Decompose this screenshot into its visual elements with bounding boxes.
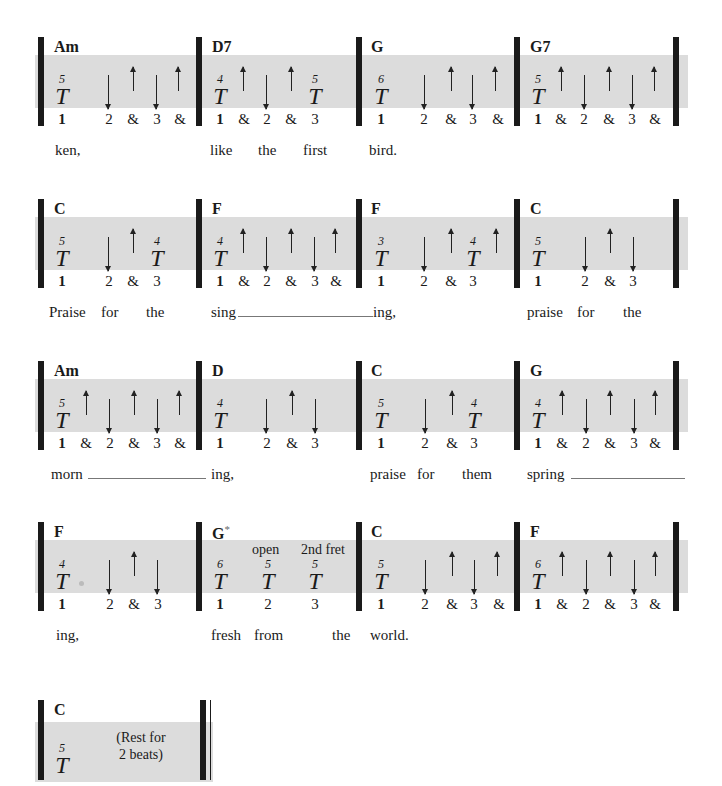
beat-count: 1 xyxy=(52,111,72,128)
beat-count: 2 xyxy=(414,111,434,128)
thumb-stroke: 5T xyxy=(52,397,72,431)
beat-count: 2 xyxy=(575,273,595,290)
up-strum-arrow-icon xyxy=(496,229,497,253)
beat-count: & xyxy=(123,273,143,290)
thumb-stroke: 6T xyxy=(371,73,391,107)
strum-row-3: Am 5T 1 & 2 & 3 & morn D 4T 1 2 & 3 ing,… xyxy=(0,361,722,521)
strum-row-4: F 4T 1 2 & 3 ing, G* open 2nd fret 6T 5T… xyxy=(0,522,722,682)
up-strum-arrow-icon xyxy=(495,67,496,91)
beat-count: 1 xyxy=(371,596,391,613)
down-strum-arrow-icon xyxy=(586,560,587,594)
lyric: spring xyxy=(527,466,565,483)
beat-count: & xyxy=(281,111,301,128)
measure: Am 5T 1 2 & 3 & ken, xyxy=(44,37,196,187)
thumb-stroke: 4T xyxy=(210,397,230,431)
down-strum-arrow-icon xyxy=(157,560,158,594)
beat-count: 3 xyxy=(305,273,325,290)
measure: C 5T (Rest for 2 beats) xyxy=(44,700,200,786)
thumb-stroke: 4T xyxy=(210,235,230,269)
chord-name: F xyxy=(371,200,381,218)
bar-line xyxy=(673,361,679,450)
chord-name: G7 xyxy=(530,38,550,56)
down-strum-arrow-icon xyxy=(424,75,425,109)
down-strum-arrow-icon xyxy=(156,75,157,109)
thumb-stroke: 3T xyxy=(371,235,391,269)
measure: G7 5T 1 & 2 & 3 & xyxy=(520,37,673,187)
up-strum-arrow-icon xyxy=(561,67,562,91)
up-strum-arrow-icon xyxy=(291,229,292,253)
lyric-extender-line xyxy=(88,478,206,479)
down-strum-arrow-icon xyxy=(472,75,473,109)
lyric: the xyxy=(146,304,164,321)
fingering-note: 2nd fret xyxy=(301,542,345,558)
lyric: ing, xyxy=(211,466,234,483)
beat-count: 3 xyxy=(305,435,325,452)
thumb-stroke: 5T xyxy=(305,558,325,592)
chord-name: Am xyxy=(54,362,79,380)
bar-line xyxy=(673,522,679,611)
chord-name: F xyxy=(212,200,222,218)
up-strum-arrow-icon xyxy=(134,391,135,415)
beat-count: 3 xyxy=(624,596,644,613)
lyric: sing xyxy=(211,304,236,321)
lyric: the xyxy=(332,627,350,644)
up-strum-arrow-icon xyxy=(610,391,611,415)
beat-count: 3 xyxy=(463,111,483,128)
measure: F 3T 4T 1 2 & 3 ing, xyxy=(361,199,514,349)
lyric: morn xyxy=(51,466,83,483)
beat-count: 1 xyxy=(528,273,548,290)
chord-name: F xyxy=(54,523,64,541)
beat-count: 1 xyxy=(210,435,230,452)
measure: G 4T 1 & 2 & 3 & spring xyxy=(520,361,673,511)
thumb-stroke: 5T xyxy=(528,73,548,107)
down-strum-arrow-icon xyxy=(585,237,586,271)
up-strum-arrow-icon xyxy=(452,552,453,576)
final-bar-line xyxy=(200,700,206,780)
beat-count: & xyxy=(170,111,190,128)
measure: G 6T 1 2 & 3 & bird. xyxy=(361,37,514,187)
up-strum-arrow-icon xyxy=(133,229,134,253)
lyric-extender-line xyxy=(238,316,373,317)
lyric: like xyxy=(210,142,233,159)
beat-count: & xyxy=(489,596,509,613)
beat-count: 3 xyxy=(622,111,642,128)
beat-count: 1 xyxy=(371,435,391,452)
beat-count: & xyxy=(551,111,571,128)
beat-count: & xyxy=(76,435,96,452)
beat-count: & xyxy=(170,435,190,452)
up-strum-arrow-icon xyxy=(133,67,134,91)
beat-count: & xyxy=(552,596,572,613)
down-strum-arrow-icon xyxy=(424,237,425,271)
beat-count: 2 xyxy=(100,435,120,452)
beat-count: 2 xyxy=(576,596,596,613)
beat-count: 1 xyxy=(52,273,72,290)
down-strum-arrow-icon xyxy=(315,399,316,433)
beat-count: & xyxy=(600,596,620,613)
up-strum-arrow-icon xyxy=(451,67,452,91)
down-strum-arrow-icon xyxy=(109,560,110,594)
up-strum-arrow-icon xyxy=(610,552,611,576)
thumb-stroke: 5T xyxy=(528,235,548,269)
measure: Am 5T 1 & 2 & 3 & morn xyxy=(44,361,196,511)
down-strum-arrow-icon xyxy=(266,237,267,271)
beat-count: 1 xyxy=(210,596,230,613)
up-strum-arrow-icon xyxy=(562,552,563,576)
chord-name: G xyxy=(371,38,383,56)
chord-name: G* xyxy=(212,523,230,543)
thumb-stroke: 5T xyxy=(52,235,72,269)
beat-count: 3 xyxy=(623,273,643,290)
beat-count: & xyxy=(123,111,143,128)
bar-line xyxy=(673,37,679,126)
beat-count: & xyxy=(488,111,508,128)
beat-count: & xyxy=(124,596,144,613)
lyric-extender-line xyxy=(571,478,685,479)
strum-row-2: C 5T 4T 1 2 & 3 Praise for the F 4T 1 & … xyxy=(0,199,722,359)
measure: F 6T 1 & 2 & 3 & xyxy=(520,522,673,672)
lyric: them xyxy=(462,466,492,483)
beat-count: & xyxy=(441,273,461,290)
beat-count: & xyxy=(326,273,346,290)
down-strum-arrow-icon xyxy=(474,560,475,594)
beat-count: 1 xyxy=(52,435,72,452)
down-strum-arrow-icon xyxy=(586,399,587,433)
up-strum-arrow-icon xyxy=(335,229,336,253)
